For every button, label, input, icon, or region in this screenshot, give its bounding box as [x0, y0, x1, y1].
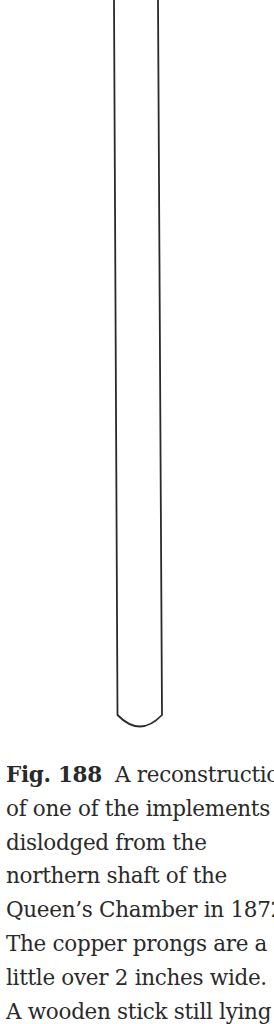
caption-line-2: of one of the implements	[6, 792, 274, 826]
stick-illustration	[0, 0, 274, 740]
caption-line-7: little over 2 inches wide.	[6, 961, 274, 995]
caption-line-1: Fig. 188 A reconstruction	[6, 758, 274, 792]
caption-line-4: northern shaft of the	[6, 859, 274, 893]
caption-line-8: A wooden stick still lying	[6, 995, 274, 1024]
caption-line-6: The copper prongs are a	[6, 927, 274, 961]
figure-label: Fig. 188	[6, 762, 102, 787]
caption-line-3: dislodged from the	[6, 826, 274, 860]
caption-line-5: Queen’s Chamber in 1872.	[6, 893, 274, 927]
wooden-stick-drawing	[0, 0, 274, 740]
figure-caption: Fig. 188 A reconstruction of one of the …	[6, 758, 274, 1024]
